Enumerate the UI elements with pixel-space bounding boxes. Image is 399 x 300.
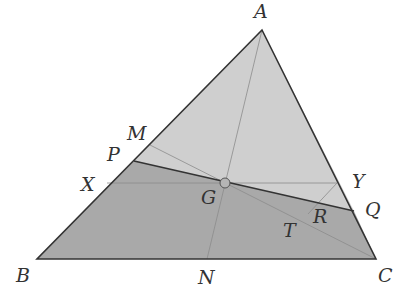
geometry-diagram: A B C M P X G N Y Q R T (0, 0, 399, 300)
label-P: P (107, 145, 120, 164)
label-Q: Q (365, 200, 381, 219)
label-Y: Y (352, 172, 365, 191)
label-A: A (254, 2, 268, 21)
label-X: X (81, 175, 95, 194)
label-C: C (378, 266, 393, 285)
label-N: N (198, 268, 215, 287)
label-B: B (16, 266, 30, 285)
label-G: G (201, 188, 216, 207)
label-R: R (313, 207, 327, 226)
label-M: M (127, 124, 146, 143)
centroid-point (220, 178, 230, 188)
label-T: T (283, 221, 296, 240)
triangle-figure (0, 0, 399, 300)
